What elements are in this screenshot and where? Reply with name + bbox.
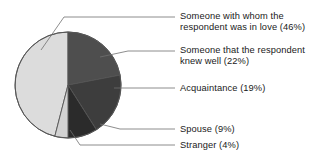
- pie-chart-graphic: [0, 0, 336, 164]
- pie-slices: [15, 32, 121, 138]
- leader-line-spouse: [100, 124, 175, 129]
- pie-chart: Someone with whom the respondent was in …: [0, 0, 336, 164]
